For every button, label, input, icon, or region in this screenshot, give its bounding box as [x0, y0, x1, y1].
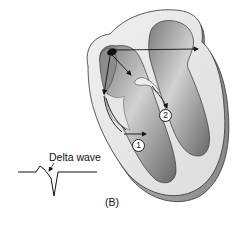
- marker-2: 2: [159, 109, 172, 122]
- panel-label: (B): [105, 196, 119, 208]
- marker-1: 1: [132, 139, 145, 152]
- delta-wave-pointer: [49, 163, 54, 171]
- ecg-trace: [18, 166, 97, 196]
- delta-wave-label: Delta wave: [49, 151, 101, 163]
- heart-diagram: [0, 0, 245, 228]
